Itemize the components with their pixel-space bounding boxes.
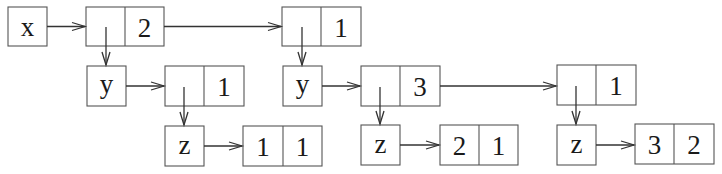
list-structure-diagram: x 2 1 y 1 y 3 1 z 1 1 [0, 0, 722, 174]
symbol-y1-node: y [87, 66, 126, 106]
cons-cell-g: 2 1 [440, 125, 518, 165]
cons-cell-a-value: 2 [138, 13, 152, 43]
symbol-z2-label: z [375, 129, 387, 159]
arrow-icon [322, 82, 360, 90]
arrow-icon [126, 82, 164, 90]
symbol-x-label: x [21, 12, 35, 42]
cons-cell-c-value: 1 [217, 72, 231, 102]
symbol-y2-node: y [283, 66, 322, 106]
cons-cell-f-right-value: 1 [296, 132, 310, 162]
cons-cell-e-value: 1 [609, 71, 623, 101]
cons-cell-h-right-value: 2 [687, 130, 701, 160]
arrow-icon [440, 82, 556, 90]
symbol-y1-label: y [100, 69, 114, 99]
symbol-z2-node: z [361, 125, 400, 165]
cons-cell-h: 3 2 [635, 124, 714, 164]
symbol-z3-node: z [557, 125, 596, 165]
arrow-icon [204, 142, 242, 150]
arrow-icon [47, 23, 85, 31]
cons-cell-h-left-value: 3 [648, 130, 662, 160]
cons-cell-g-right-value: 1 [492, 131, 506, 161]
cons-cell-b: 1 [282, 7, 361, 46]
symbol-z1-label: z [179, 130, 191, 160]
cons-cell-f-left-value: 1 [256, 132, 270, 162]
symbol-x-node: x [8, 7, 47, 46]
arrow-icon [596, 141, 634, 149]
symbol-y2-label: y [296, 69, 310, 99]
arrow-icon [400, 141, 439, 149]
symbol-z1-node: z [165, 126, 204, 166]
cons-cell-g-left-value: 2 [453, 131, 467, 161]
cons-cell-b-value: 1 [334, 13, 348, 43]
cons-cell-e: 1 [557, 65, 636, 105]
cons-cell-a: 2 [86, 7, 164, 46]
cons-cell-f: 1 1 [243, 126, 322, 166]
symbol-z3-label: z [571, 129, 583, 159]
cons-cell-d: 3 [361, 66, 440, 106]
cons-cell-c: 1 [165, 66, 244, 106]
arrow-icon [164, 23, 281, 31]
cons-cell-d-value: 3 [413, 72, 427, 102]
